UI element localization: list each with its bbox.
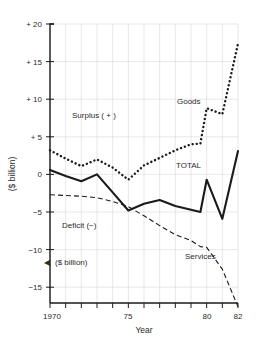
annotation-total: TOTAL [176,161,202,170]
annotation-dollar-billion: ($ billion) [55,258,88,267]
annotation-deficit: Deficit (−) [62,221,97,230]
ytick-label-0: 0 [38,170,43,179]
annotation-surplus: Surplus ( + ) [72,111,116,120]
ytick-label-neg5: −5 [33,208,43,217]
x-axis-title: Year [135,325,152,335]
ytick-label-15: + 15 [26,58,42,67]
y-axis-spine [50,24,54,303]
xtick-label-75: 75 [124,312,133,321]
ytick-label-20: + 20 [26,20,42,29]
ytick-label-neg15: −15 [28,283,42,292]
balance-of-trade-line-chart: + 20 + 15 + 10 + 5 0 −5 −10 −15 1970 75 … [0,0,261,347]
annotation-services: Services [185,252,216,261]
xtick-label-80: 80 [203,312,212,321]
annotation-goods: Goods [177,97,201,106]
ytick-label-10: + 10 [26,95,42,104]
xtick-label-82: 82 [234,312,243,321]
x-axis-ticks [50,303,238,308]
ytick-label-neg10: −10 [28,246,42,255]
y-axis-title: ($ billion) [7,157,17,192]
ytick-label-5: + 5 [31,133,43,142]
chart-figure: + 20 + 15 + 10 + 5 0 −5 −10 −15 1970 75 … [0,0,261,347]
left-arrow-icon: ◀ [44,258,51,267]
xtick-label-1970: 1970 [43,312,61,321]
